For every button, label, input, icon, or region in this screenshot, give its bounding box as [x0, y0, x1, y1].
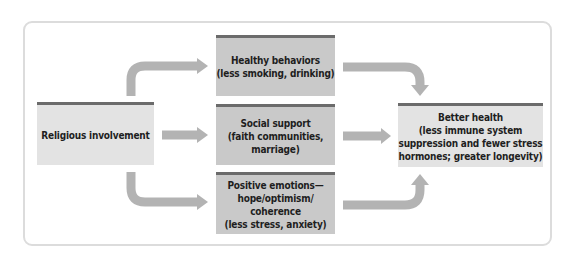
arrow-behaviors-to-health [343, 67, 420, 86]
arrowhead-icon [197, 194, 208, 210]
node-label: Healthy behaviors (less smoking, drinkin… [216, 54, 334, 80]
node-healthy-behaviors: Healthy behaviors (less smoking, drinkin… [216, 35, 335, 96]
node-label: Social support (faith communities, marri… [228, 117, 324, 156]
arrow-religion-to-behaviors [131, 66, 198, 96]
node-social-support: Social support (faith communities, marri… [216, 104, 335, 165]
node-religious-involvement: Religious involvement [37, 102, 154, 165]
node-label: Better health (less immune system suppre… [398, 111, 542, 163]
node-label: Positive emotions— hope/optimism/ cohere… [225, 179, 327, 231]
node-positive-emotions: Positive emotions— hope/optimism/ cohere… [216, 172, 335, 234]
arrow-emotions-to-health [343, 184, 420, 205]
arrow-religion-to-emotions [131, 172, 198, 202]
arrowhead-icon [381, 128, 391, 144]
arrowhead-icon [197, 58, 208, 74]
arrowhead-icon [411, 174, 429, 185]
arrowhead-icon [411, 85, 429, 96]
node-label: Religious involvement [41, 129, 149, 142]
node-better-health: Better health (less immune system suppre… [398, 103, 543, 167]
arrowhead-icon [197, 127, 208, 143]
